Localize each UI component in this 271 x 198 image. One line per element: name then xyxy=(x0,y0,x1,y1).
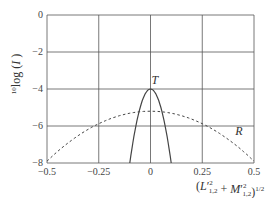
x-axis-label: (L′21,2 + M′21,2)1/2 xyxy=(196,179,265,198)
y-tick-label: −8 xyxy=(32,157,43,168)
x-tick-label: 0 xyxy=(148,166,153,177)
curve-label-R: R xyxy=(234,124,243,138)
y-tick-label: −4 xyxy=(32,83,43,94)
chart: −0.5−0.2500.250.50−2−4−6−8TR10log (I )(L… xyxy=(0,0,271,198)
y-tick-label: −2 xyxy=(32,46,43,57)
y-tick-label: 0 xyxy=(38,9,43,20)
x-tick-label: −0.25 xyxy=(87,166,110,177)
x-tick-label: 0.25 xyxy=(194,166,212,177)
curve-label-T: T xyxy=(152,73,160,87)
y-tick-label: −6 xyxy=(32,120,43,131)
x-tick-label: 0.5 xyxy=(248,166,261,177)
y-axis-label: 10log (I ) xyxy=(9,54,23,94)
